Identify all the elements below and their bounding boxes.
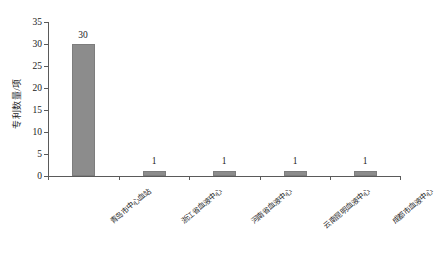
bar-value-0: 30 — [63, 31, 103, 41]
bar-2 — [213, 171, 236, 176]
y-axis-line — [48, 22, 49, 176]
y-tick-label-10: 10 — [18, 128, 42, 138]
bar-value-4: 1 — [345, 157, 385, 167]
y-tick-label-20: 20 — [18, 84, 42, 94]
y-tick-label-25: 25 — [18, 62, 42, 72]
bar-3 — [284, 171, 307, 176]
y-tick-label-15: 15 — [18, 106, 42, 116]
x-axis-line — [48, 176, 401, 177]
x-tick-mark-1 — [119, 176, 120, 180]
x-tick-mark-0 — [48, 176, 49, 180]
bar-4 — [354, 171, 377, 176]
x-tick-mark-5 — [400, 176, 401, 180]
x-category-label-0: 青岛市中心血站 — [107, 185, 153, 226]
bar-1 — [143, 171, 166, 176]
y-tick-label-30: 30 — [18, 40, 42, 50]
bar-value-2: 1 — [204, 157, 244, 167]
bar-0 — [72, 44, 95, 176]
y-tick-label-5: 5 — [18, 150, 42, 160]
x-tick-mark-4 — [330, 176, 331, 180]
bar-value-1: 1 — [134, 157, 174, 167]
x-category-label-1: 浙江省血液中心 — [178, 185, 224, 226]
x-category-label-3: 云南昆明血液中心 — [320, 185, 371, 230]
x-tick-mark-2 — [189, 176, 190, 180]
y-tick-label-0: 0 — [18, 172, 42, 182]
y-tick-label-35: 35 — [18, 18, 42, 28]
x-category-label-2: 河南省血液中心 — [248, 185, 294, 226]
bar-value-3: 1 — [275, 157, 315, 167]
x-tick-mark-3 — [260, 176, 261, 180]
x-category-label-4: 成都市血液中心 — [389, 185, 434, 226]
